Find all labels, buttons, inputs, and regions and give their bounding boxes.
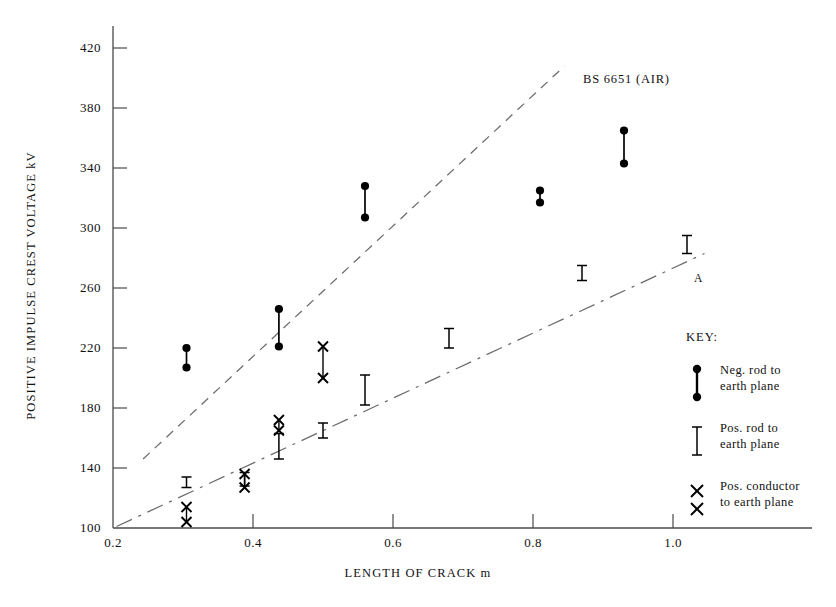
y-tick-label: 260 [63, 280, 101, 296]
legend-label: Neg. rod toearth plane [720, 362, 781, 394]
legend-label-line1: Neg. rod to [720, 362, 781, 378]
data-marker [274, 415, 284, 436]
y-tick-label: 140 [63, 460, 101, 476]
data-marker [536, 186, 544, 206]
data-marker [182, 502, 192, 527]
x-tick-label: 1.0 [653, 535, 693, 551]
data-marker [182, 344, 190, 372]
y-tick-label: 340 [63, 160, 101, 176]
legend-symbol-filled-circle-pair [684, 363, 714, 405]
x-tick-label: 0.4 [233, 535, 273, 551]
data-marker [444, 329, 454, 349]
data-points [182, 126, 693, 527]
legend-label: Pos. conductorto earth plane [720, 478, 800, 510]
x-axis-title: LENGTH OF CRACK m [278, 566, 558, 581]
y-tick-label: 220 [63, 340, 101, 356]
legend-label-line2: earth plane [720, 436, 780, 452]
curve-a-label: A [694, 272, 703, 284]
legend-items: Neg. rod toearth planePos. rod toearth p… [684, 363, 836, 525]
y-tick-label: 420 [63, 40, 101, 56]
legend-item: Neg. rod toearth plane [684, 363, 836, 409]
bs6651-line-label: BS 6651 (AIR) [583, 72, 670, 87]
y-axis-title: POSITIVE IMPULSE CREST VOLTAGE kV [24, 151, 39, 421]
data-marker [274, 434, 284, 460]
x-tick-label: 0.2 [93, 535, 133, 551]
legend-label-line2: to earth plane [720, 494, 800, 510]
x-tick-label: 0.8 [513, 535, 553, 551]
data-marker [318, 423, 328, 438]
y-tick-label: 100 [63, 520, 101, 536]
legend-label: Pos. rod toearth plane [720, 420, 780, 452]
chart-legend: KEY: Neg. rod toearth planePos. rod toea… [684, 330, 836, 537]
legend-label-line1: Pos. conductor [720, 478, 800, 494]
data-marker [275, 305, 283, 351]
legend-symbol-cross-pair [684, 479, 714, 521]
legend-item: Pos. conductorto earth plane [684, 479, 836, 525]
data-marker [577, 266, 587, 281]
data-marker [318, 342, 328, 384]
reference-lines [117, 66, 705, 527]
x-tick-label: 0.6 [373, 535, 413, 551]
data-marker [682, 236, 692, 254]
y-tick-label: 380 [63, 100, 101, 116]
y-tick-label: 180 [63, 400, 101, 416]
legend-title: KEY: [686, 330, 836, 345]
data-marker [361, 182, 369, 222]
legend-item: Pos. rod toearth plane [684, 421, 836, 467]
data-marker [360, 375, 370, 405]
legend-symbol-capped-bar [684, 421, 714, 463]
y-tick-label: 300 [63, 220, 101, 236]
legend-label-line1: Pos. rod to [720, 420, 780, 436]
data-marker [182, 477, 192, 488]
legend-label-line2: earth plane [720, 378, 781, 394]
axis-ticks [113, 48, 673, 528]
data-marker [620, 126, 628, 167]
